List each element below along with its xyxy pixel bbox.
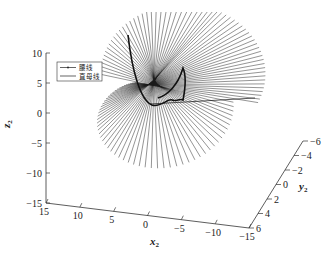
generator-line bbox=[111, 40, 219, 142]
x-tick-label: −15 bbox=[239, 231, 255, 242]
x-tick-label: 15 bbox=[39, 206, 49, 217]
z-tick-label: −10 bbox=[26, 168, 42, 179]
y-tick-label: −2 bbox=[292, 165, 303, 176]
z-axis: 1050−5−10−15 z2 bbox=[0, 48, 50, 209]
generator-line bbox=[99, 13, 222, 134]
z-tick-label: 0 bbox=[37, 108, 42, 119]
generator-line bbox=[97, 23, 238, 120]
z-tick-label: 10 bbox=[32, 48, 42, 59]
y-tick-label: 6 bbox=[256, 223, 261, 234]
x-tick-label: 0 bbox=[143, 219, 148, 230]
y-tick-label: −4 bbox=[301, 150, 312, 161]
x-tick-label: −10 bbox=[205, 227, 221, 238]
z-tick-label: 5 bbox=[37, 78, 42, 89]
generator-lines bbox=[97, 12, 265, 168]
z-tick-label: −5 bbox=[31, 138, 42, 149]
generator-line bbox=[98, 15, 226, 130]
legend-label-waist: 腰线 bbox=[79, 63, 93, 72]
x-tick-label: −5 bbox=[174, 223, 185, 234]
3d-ruled-surface-chart: 1050−5−10−15 z2 151050−5−10−15 x2 6420−2… bbox=[0, 0, 333, 258]
legend: 腰线 直母线 bbox=[57, 62, 102, 81]
x-axis-label: x2 bbox=[149, 235, 160, 249]
y-tick-label: 0 bbox=[283, 179, 288, 190]
x-tick-label: 5 bbox=[109, 214, 114, 225]
y-axis-label: y2 bbox=[297, 180, 308, 194]
generator-line bbox=[101, 67, 233, 111]
legend-marker-dot bbox=[67, 67, 69, 69]
x-axis: 151050−5−10−15 x2 bbox=[39, 199, 255, 249]
y-tick-label: 4 bbox=[265, 208, 270, 219]
y-tick-label: −6 bbox=[310, 136, 321, 147]
generator-line bbox=[106, 47, 259, 98]
x-tick-label: 10 bbox=[73, 210, 83, 221]
y-tick-label: 2 bbox=[274, 194, 279, 205]
z-axis-label: z2 bbox=[0, 120, 14, 129]
y-axis: 6420−2−4−6 y2 bbox=[249, 136, 321, 234]
legend-label-generator: 直母线 bbox=[79, 72, 100, 81]
